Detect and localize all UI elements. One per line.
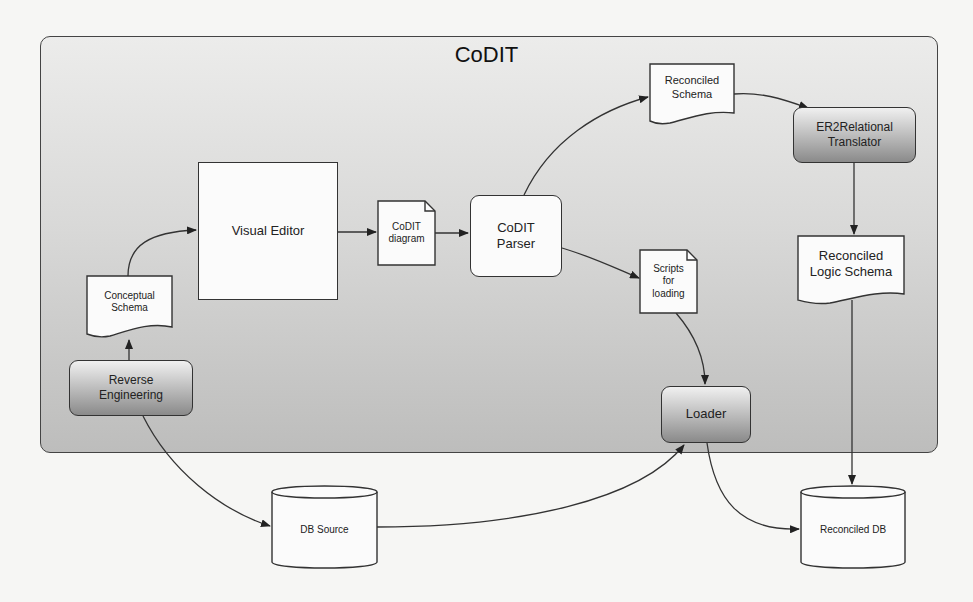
reverse-engineering-label: Reverse Engineering xyxy=(99,373,163,403)
reconciled-schema-label: Reconciled Schema xyxy=(665,74,719,102)
er2relational-translator-box[interactable]: ER2Relational Translator xyxy=(793,107,916,163)
scripts-for-loading-label: Scripts for loading xyxy=(652,263,684,301)
loader-box[interactable]: Loader xyxy=(661,386,751,443)
db-source-label: DB Source xyxy=(300,524,348,537)
reconciled-logic-schema-label: Reconciled Logic Schema xyxy=(810,248,892,281)
reconciled-logic-schema-doc[interactable]: Reconciled Logic Schema xyxy=(798,236,904,292)
reconciled-schema-doc[interactable]: Reconciled Schema xyxy=(650,64,734,112)
codit-diagram-label: CoDIT diagram xyxy=(388,221,424,246)
reconciled-db-label: Reconciled DB xyxy=(820,524,886,537)
edge-db-source-to-loader xyxy=(377,445,684,527)
edge-reconciled-schema-to-translator xyxy=(734,94,808,108)
reverse-engineering-box[interactable]: Reverse Engineering xyxy=(69,360,193,416)
visual-editor-label: Visual Editor xyxy=(232,223,305,239)
er2relational-translator-label: ER2Relational Translator xyxy=(816,120,893,150)
codit-parser-box[interactable]: CoDIT Parser xyxy=(470,195,562,277)
conceptual-schema-doc[interactable]: Conceptual Schema xyxy=(87,276,172,328)
visual-editor-box[interactable]: Visual Editor xyxy=(198,162,338,300)
loader-label: Loader xyxy=(686,406,726,422)
codit-parser-label: CoDIT Parser xyxy=(497,220,535,253)
edge-loader-to-reconciled-db xyxy=(707,443,799,529)
edge-conceptual-to-editor xyxy=(128,230,196,276)
edge-scripts-to-loader xyxy=(676,313,705,384)
edge-parser-to-scripts xyxy=(562,248,639,278)
edge-reverse-to-db-source xyxy=(143,416,270,526)
reconciled-db-cylinder[interactable]: Reconciled DB xyxy=(801,496,905,564)
scripts-for-loading-doc[interactable]: Scripts for loading xyxy=(640,250,697,313)
conceptual-schema-label: Conceptual Schema xyxy=(104,290,155,315)
db-source-cylinder[interactable]: DB Source xyxy=(272,496,377,564)
edge-parser-to-reconciled-schema xyxy=(524,97,648,195)
codit-diagram-doc[interactable]: CoDIT diagram xyxy=(378,201,435,265)
